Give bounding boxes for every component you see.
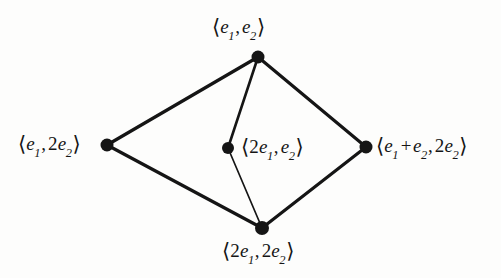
node-label-e1-2e2: ⟨e1,2e2⟩ <box>18 133 81 157</box>
edge-top-to-right <box>258 57 366 147</box>
node-layer <box>101 51 373 236</box>
edge-left-to-top <box>107 57 258 145</box>
node-e1-e2 <box>252 51 265 64</box>
node-label-2e1-e2: ⟨2e1,e2⟩ <box>241 136 304 160</box>
node-e1-plus-e2-2e2 <box>360 141 373 154</box>
node-label-e1-plus-e2-2e2: ⟨e1+e2,2e2⟩ <box>376 135 468 159</box>
node-2e1-2e2 <box>255 221 269 235</box>
node-e1-2e2 <box>101 139 114 152</box>
edge-left-to-bottom <box>107 145 262 228</box>
node-label-2e1-2e2: ⟨2e1,2e2⟩ <box>222 240 294 264</box>
edge-layer <box>107 57 366 228</box>
node-2e1-e2 <box>222 142 234 154</box>
lattice-diagram: ⟨e1,e2⟩ ⟨e1,2e2⟩ ⟨2e1,e2⟩ ⟨e1+e2,2e2⟩ ⟨2… <box>0 0 501 278</box>
node-label-e1-e2: ⟨e1,e2⟩ <box>212 16 265 40</box>
